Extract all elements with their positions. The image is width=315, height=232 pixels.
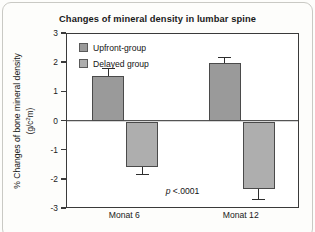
- bar-delayed: [243, 122, 275, 189]
- x-axis-label: Monat 6: [109, 210, 140, 220]
- error-bar-cap: [136, 174, 149, 175]
- plot-area: Upfront-group Delayed group p <.0001: [66, 33, 299, 208]
- x-axis-label: Monat 12: [223, 210, 259, 220]
- p-value-text: <.0001: [170, 186, 199, 196]
- y-axis-ticks: 3210-1-2-3: [0, 33, 66, 208]
- y-tick-label: -3: [51, 202, 58, 214]
- error-bar-cap: [252, 199, 265, 200]
- y-tick-label: -2: [51, 173, 58, 185]
- x-axis-labels: Monat 6Monat 12: [66, 210, 299, 228]
- y-tick-label: 3: [53, 27, 58, 39]
- plot-inner: Upfront-group Delayed group p <.0001: [67, 34, 298, 207]
- legend-item-upfront: Upfront-group: [79, 41, 149, 54]
- y-tick-label: 1: [53, 85, 58, 97]
- y-tick-label: -1: [51, 144, 58, 156]
- p-value-annotation: p <.0001: [166, 186, 200, 196]
- bar-upfront: [92, 76, 124, 122]
- bar-upfront: [209, 63, 241, 121]
- legend-swatch-icon: [79, 59, 88, 68]
- error-bar-line: [224, 57, 225, 63]
- error-bar-cap: [218, 57, 231, 58]
- legend-swatch-icon: [79, 43, 88, 52]
- error-bar-line: [108, 68, 109, 75]
- y-tick-label: 2: [53, 56, 58, 68]
- y-tick-label: 0: [53, 115, 58, 127]
- chart-title: Changes of mineral density in lumbar spi…: [0, 14, 315, 24]
- error-bar-cap: [102, 68, 115, 69]
- bar-delayed: [126, 122, 158, 168]
- legend-label: Upfront-group: [93, 43, 146, 53]
- chart-page: Changes of mineral density in lumbar spi…: [0, 0, 315, 232]
